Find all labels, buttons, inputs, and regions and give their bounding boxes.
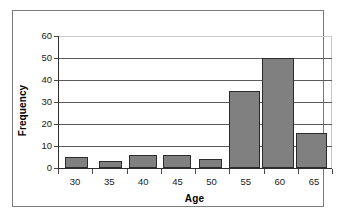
x-axis-tick-mark [58,169,59,174]
x-axis-tick-label: 30 [60,176,90,188]
x-axis-tick-label: 35 [94,176,124,188]
x-axis-tick-mark [127,169,128,174]
y-axis-tick-label: 50 [30,53,52,63]
y-axis-tick-label: 20 [30,119,52,129]
y-axis-tick-label: 0 [30,163,52,173]
x-axis-tick-label: 40 [128,176,158,188]
x-axis-tick-marks [58,169,332,174]
x-axis-tick-label: 45 [162,176,192,188]
bar-series [59,36,332,168]
y-axis-tick-label: 30 [30,97,52,107]
y-axis-tick-label: 40 [30,75,52,85]
y-axis-title-label: Frequency [18,84,29,135]
x-axis-title: Age [58,193,331,204]
x-axis-tick-mark [92,169,93,174]
x-axis-tick-label: 60 [265,176,295,188]
x-axis-tick-labels: 3035404550556065 [58,176,331,190]
chart-frame: Frequency 0102030405060 3035404550556065… [12,10,324,207]
x-axis-tick-mark [195,169,196,174]
bar [163,155,191,168]
y-axis-tick-label: 10 [30,141,52,151]
x-axis-tick-mark [332,169,333,174]
y-axis-title: Frequency [16,55,30,165]
y-axis-tick-labels: 0102030405060 [30,31,52,173]
x-axis-tick-label: 55 [231,176,261,188]
x-axis-tick-mark [264,169,265,174]
bar [262,58,293,168]
plot-area [58,36,332,169]
bar [129,155,157,168]
bar [229,91,260,168]
bar [99,161,122,168]
x-axis-tick-mark [298,169,299,174]
x-axis-tick-label: 65 [299,176,329,188]
x-axis-tick-label: 50 [197,176,227,188]
y-axis-tick-label: 60 [30,31,52,41]
bar [296,133,327,168]
bar [199,159,222,168]
bar [65,157,88,168]
x-axis-tick-mark [229,169,230,174]
x-axis-tick-mark [161,169,162,174]
